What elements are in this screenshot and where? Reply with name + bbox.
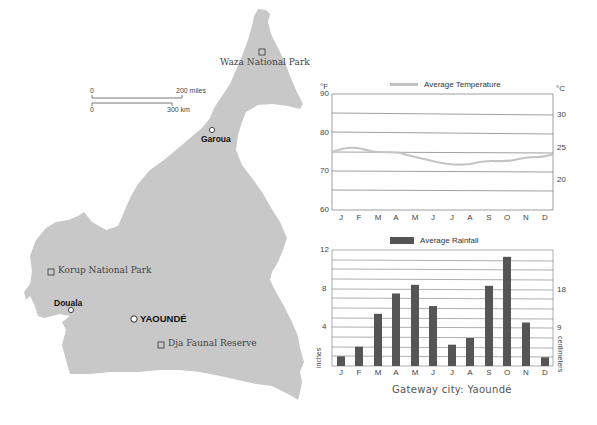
svg-text:M: M: [375, 368, 382, 377]
svg-text:A: A: [467, 368, 473, 377]
svg-text:F: F: [357, 368, 362, 377]
bar-jul: [448, 345, 456, 366]
bar-aug: [466, 338, 474, 366]
svg-text:N: N: [523, 368, 529, 377]
rainfall-chart: JFMAMJJASOND: [0, 0, 597, 425]
bar-jun: [429, 306, 437, 366]
rain-x-axis-labels: JFMAMJJASOND: [339, 368, 548, 377]
bar-feb: [355, 347, 363, 366]
bar-may: [411, 285, 419, 366]
svg-text:J: J: [339, 368, 343, 377]
bar-dec: [541, 357, 549, 366]
svg-text:A: A: [393, 368, 399, 377]
bar-mar: [374, 314, 382, 366]
svg-text:D: D: [542, 368, 548, 377]
rainfall-bars: [337, 257, 549, 366]
svg-text:J: J: [431, 368, 435, 377]
svg-text:J: J: [450, 368, 454, 377]
gateway-city-caption: Gateway city: Yaoundé: [392, 384, 512, 395]
bar-jan: [337, 356, 345, 366]
bar-oct: [503, 257, 511, 366]
bar-apr: [392, 294, 400, 367]
svg-text:M: M: [412, 368, 419, 377]
bar-sep: [485, 286, 493, 366]
svg-text:S: S: [486, 368, 491, 377]
svg-text:O: O: [504, 368, 510, 377]
bar-nov: [522, 323, 530, 367]
